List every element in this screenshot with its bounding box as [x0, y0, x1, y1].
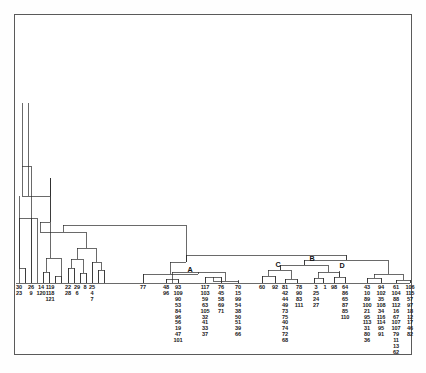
link-B1: [280, 265, 328, 272]
leaf-label-column: 10611557971812174682: [406, 285, 415, 338]
leaf-label-column: 92: [272, 285, 278, 291]
leaf-label-column: 98: [331, 285, 337, 291]
leaf-label: 28: [65, 291, 71, 297]
link-m6: [77, 248, 96, 262]
leaf-label: 111: [295, 303, 303, 309]
leaf-label-column: 6486658785110: [341, 285, 350, 320]
link-BR: [304, 260, 388, 268]
link-A4: [172, 272, 225, 281]
leaf-label-column: 77: [140, 285, 146, 291]
link-30-23: [19, 218, 25, 283]
leaf-label-column: 3252427: [313, 285, 319, 309]
leaf-label: 68: [282, 338, 288, 344]
leaf-label: 120: [37, 291, 46, 297]
link-m2: [80, 273, 86, 283]
cluster-label-B: B: [309, 254, 314, 263]
leaf-label-column: 269: [28, 285, 34, 297]
link-C3: [268, 270, 291, 279]
leaf-label-column: 789083111: [295, 285, 303, 309]
link-R2: [396, 280, 410, 283]
leaf-label: 91: [377, 332, 386, 338]
leaf-label-column: 7645586971: [218, 285, 224, 315]
leaf-label-column: 2547: [89, 285, 95, 303]
leaf-label: 23: [16, 291, 22, 297]
link-left-top: [22, 166, 50, 196]
leaf-label: 77: [140, 285, 146, 291]
leaf-label: 82: [406, 332, 415, 338]
link-g2-a: [43, 272, 49, 283]
leaf-label-column: 4310891002195113318036: [363, 285, 372, 344]
leaf-label: 66: [235, 332, 241, 338]
link-left-join: [40, 178, 50, 222]
leaf-label-column: 9310990538496561947101: [174, 285, 183, 344]
link-m3: [71, 259, 83, 273]
cluster-label-D: D: [339, 261, 344, 270]
leaf-label: 98: [331, 285, 337, 291]
leaf-label-column: 3023: [16, 285, 22, 297]
link-m1: [68, 268, 74, 283]
leaf-label: 9: [28, 291, 34, 297]
leaf-label-column: 701599543850513966: [235, 285, 241, 338]
leaf-label-column: 8: [84, 285, 87, 291]
leaf-label: 101: [174, 338, 183, 344]
link-m5: [92, 262, 101, 283]
leaf-label-column: 117103596310532413337: [201, 285, 210, 338]
link-deep-left: [19, 196, 37, 253]
link-R1: [367, 278, 381, 283]
link-g2-b: [46, 258, 61, 276]
leaf-label: 37: [201, 332, 210, 338]
leaf-label: 8: [84, 285, 87, 291]
link-AR: [186, 255, 346, 262]
dendrogram-figure: A C B D 30232691412011911812122282968254…: [0, 0, 426, 373]
leaf-label: 62: [392, 350, 401, 356]
leaf-label-column: 2228: [65, 285, 71, 297]
leaf-label-column: 6110488112166710710779111362: [392, 285, 401, 356]
leaf-label-column: 119118121: [46, 285, 55, 303]
link-root-span: [63, 225, 186, 262]
leaf-label-column: 14120: [37, 285, 46, 297]
cluster-label-C: C: [275, 260, 280, 269]
leaf-label: 6: [74, 291, 80, 297]
leaf-label: 110: [341, 315, 350, 321]
link-A3: [213, 277, 238, 283]
leaf-label: 96: [163, 291, 169, 297]
leaf-label-column: 296: [74, 285, 80, 297]
leaf-label: 1: [324, 285, 327, 291]
leaf-label-column: 1: [324, 285, 327, 291]
cluster-label-A: A: [187, 265, 192, 274]
leaf-label: 7: [89, 297, 95, 303]
leaf-label: 60: [259, 285, 265, 291]
leaf-label: 27: [313, 303, 319, 309]
link-m4: [98, 270, 104, 283]
leaf-label-column: 60: [259, 285, 265, 291]
leaf-label-column: 81424449737540747268: [282, 285, 288, 344]
leaf-label-column: 9410235108341161149591: [377, 285, 386, 338]
link-C2: [285, 279, 297, 283]
link-g2-c: [55, 276, 61, 283]
leaf-label: 71: [218, 309, 224, 315]
link-left-apex: [22, 103, 31, 283]
leaf-label: 92: [272, 285, 278, 291]
link-R3: [374, 274, 403, 280]
link-C1: [262, 276, 275, 283]
leaf-label-column: 4896: [163, 285, 169, 297]
leaf-label: 121: [46, 297, 55, 303]
leaf-label: 36: [363, 338, 372, 344]
link-D2: [334, 277, 345, 283]
link-D1: [314, 278, 323, 283]
